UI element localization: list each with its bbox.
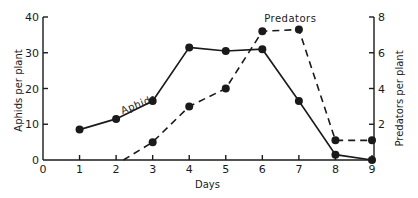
y2-tick-label: 4 (378, 83, 385, 96)
y-tick-label: 0 (32, 154, 39, 167)
y2-tick-label: 6 (378, 47, 385, 60)
x-tick-label: 7 (295, 163, 302, 176)
y-tick-label: 10 (25, 118, 39, 131)
y2-tick-label: 2 (378, 118, 385, 131)
chart: 01234567890102030402468 Days Aphids per … (0, 0, 418, 198)
predators-point (295, 26, 303, 34)
y-tick-label: 40 (25, 11, 39, 24)
aphids-point (331, 151, 339, 159)
x-tick-label: 0 (40, 163, 47, 176)
x-tick-label: 8 (332, 163, 339, 176)
x-tick-label: 4 (186, 163, 193, 176)
predators-point (222, 85, 230, 93)
predators-point (258, 27, 266, 35)
predators-point (185, 102, 193, 110)
aphids-point (368, 156, 376, 164)
x-tick-label: 6 (259, 163, 266, 176)
x-tick-label: 2 (113, 163, 120, 176)
aphids-point (222, 47, 230, 55)
axes: 01234567890102030402468 (25, 11, 385, 176)
x-tick-label: 3 (149, 163, 156, 176)
y-tick-label: 20 (25, 83, 39, 96)
aphids-point (112, 115, 120, 123)
aphids-point (295, 97, 303, 105)
predators-point (331, 136, 339, 144)
x-tick-label: 9 (369, 163, 376, 176)
aphids-point (258, 45, 266, 53)
aphids-point (76, 126, 84, 134)
series-layer (76, 26, 376, 164)
predators-point (149, 138, 157, 146)
predators-point (368, 136, 376, 144)
x-axis-title: Days (195, 179, 220, 190)
annotation-aphids: Aphids (119, 92, 157, 116)
aphids-point (185, 43, 193, 51)
annotation-predators: Predators (264, 13, 316, 24)
x-tick-label: 1 (76, 163, 83, 176)
y2-axis-title: Predators per plant (394, 50, 405, 146)
y-tick-label: 30 (25, 47, 39, 60)
y2-tick-label: 8 (378, 11, 385, 24)
x-tick-label: 5 (222, 163, 229, 176)
y-axis-title: Aphids per plant (13, 49, 24, 131)
